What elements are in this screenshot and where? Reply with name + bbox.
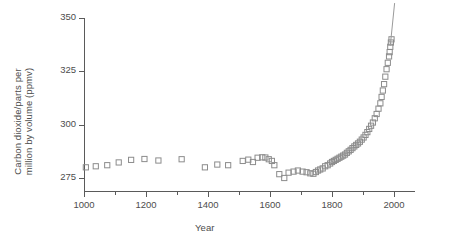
- data-point: [368, 123, 373, 128]
- data-point: [105, 163, 110, 168]
- data-point: [313, 169, 318, 174]
- x-tick-label-1200: 1200: [126, 199, 166, 210]
- data-point: [277, 172, 282, 177]
- data-point: [352, 144, 357, 149]
- data-point: [308, 171, 313, 176]
- data-point: [342, 152, 347, 157]
- data-point: [372, 116, 377, 121]
- data-point: [389, 37, 394, 42]
- data-point: [246, 157, 251, 162]
- data-point: [282, 175, 287, 180]
- data-point: [226, 163, 231, 168]
- y-tick-label-300: 300: [42, 118, 76, 129]
- data-point: [311, 171, 316, 176]
- data-point: [325, 163, 330, 168]
- y-tick-label-325: 325: [42, 64, 76, 75]
- x-tick-1200: [146, 192, 147, 197]
- x-tick-label-1600: 1600: [250, 199, 290, 210]
- data-point: [367, 126, 372, 131]
- data-series-ice-core-co2-record: [83, 37, 394, 181]
- y-tick-300: [79, 125, 84, 126]
- x-tick-label-1000: 1000: [64, 199, 104, 210]
- data-point: [240, 158, 245, 163]
- data-point: [350, 146, 355, 151]
- data-point: [263, 155, 268, 160]
- x-minor-tick-1500: [239, 192, 240, 195]
- data-point: [386, 54, 391, 59]
- x-tick-label-1400: 1400: [188, 199, 228, 210]
- data-point: [348, 147, 353, 152]
- data-point: [260, 155, 265, 160]
- data-point: [323, 164, 328, 169]
- data-point: [354, 142, 359, 147]
- data-point: [388, 40, 393, 45]
- y-axis-label: Carbon dioxide/parts per million by volu…: [0, 0, 46, 243]
- x-tick-1600: [270, 192, 271, 197]
- data-point: [388, 44, 393, 49]
- x-minor-tick-1900: [363, 192, 364, 195]
- data-point: [378, 101, 383, 106]
- co2-concentration-chart: Carbon dioxide/parts per million by volu…: [0, 0, 467, 243]
- data-point: [337, 155, 342, 160]
- data-point: [365, 130, 370, 135]
- x-tick-label-1800: 1800: [312, 199, 352, 210]
- data-point: [286, 170, 291, 175]
- data-point: [335, 156, 340, 161]
- data-point: [363, 132, 368, 137]
- x-tick-1400: [208, 192, 209, 197]
- y-tick-350: [79, 18, 84, 19]
- data-point: [385, 60, 390, 65]
- data-point: [355, 141, 360, 146]
- data-point: [320, 166, 325, 171]
- data-point: [387, 50, 392, 55]
- data-point: [215, 162, 220, 167]
- x-axis-line: [84, 191, 415, 192]
- x-minor-tick-1300: [177, 192, 178, 195]
- y-axis-line: [84, 18, 85, 192]
- data-point: [329, 159, 334, 164]
- data-point: [379, 94, 384, 99]
- x-tick-label-2000: 2000: [374, 199, 414, 210]
- y-tick-label-350: 350: [42, 11, 76, 22]
- data-point: [374, 111, 379, 116]
- data-point: [255, 155, 260, 160]
- x-minor-tick-1100: [115, 192, 116, 195]
- data-point: [331, 158, 336, 163]
- data-point: [93, 164, 98, 169]
- data-point: [359, 137, 364, 142]
- data-point: [357, 139, 362, 144]
- data-point: [384, 67, 389, 72]
- data-point: [315, 168, 320, 173]
- data-point: [381, 82, 386, 87]
- data-point: [156, 158, 161, 163]
- data-point: [269, 158, 274, 163]
- data-point: [304, 170, 309, 175]
- data-point: [333, 157, 338, 162]
- data-point: [179, 157, 184, 162]
- data-point: [295, 168, 300, 173]
- data-point: [291, 169, 296, 174]
- data-point: [318, 167, 323, 172]
- data-point: [202, 165, 207, 170]
- data-point: [129, 157, 134, 162]
- x-axis-label: Year: [195, 222, 215, 233]
- data-point: [266, 157, 271, 162]
- data-point: [341, 153, 346, 158]
- data-point: [250, 159, 255, 164]
- data-point: [339, 154, 344, 159]
- x-tick-2000: [394, 192, 395, 197]
- data-point: [370, 120, 375, 125]
- data-point: [328, 161, 333, 166]
- data-point: [344, 150, 349, 155]
- data-point: [376, 106, 381, 111]
- y-axis-label-text: Carbon dioxide/parts per million by volu…: [12, 68, 35, 175]
- data-point: [300, 169, 305, 174]
- data-point: [346, 149, 351, 154]
- data-point: [361, 135, 366, 140]
- x-tick-1000: [84, 192, 85, 197]
- data-point: [383, 74, 388, 79]
- data-point: [272, 163, 277, 168]
- data-point: [142, 156, 147, 161]
- data-point: [116, 160, 121, 165]
- y-tick-325: [79, 71, 84, 72]
